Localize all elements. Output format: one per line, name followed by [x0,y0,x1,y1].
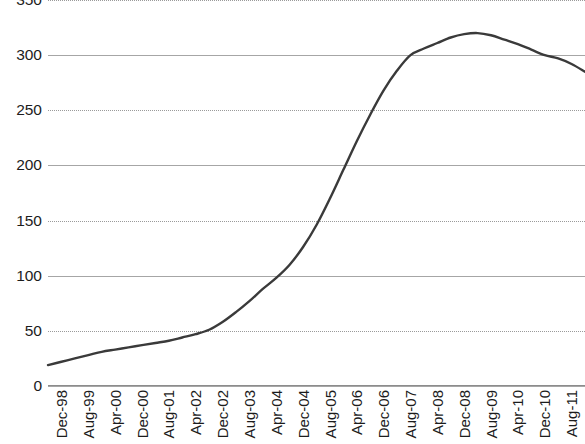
line-chart: 050100150200250300350 Dec-98Aug-99Apr-00… [0,0,585,444]
x-tick-label: Aug-07 [403,390,418,438]
y-tick-label: 350 [0,0,42,8]
y-tick-label: 100 [0,268,42,284]
plot-area [48,0,585,386]
x-tick-label: Apr-02 [188,390,203,435]
x-tick-label: Dec-06 [376,390,391,438]
x-tick-label: Aug-11 [564,390,579,437]
y-axis: 050100150200250300350 [0,0,42,444]
y-tick-label: 50 [0,323,42,339]
x-tick-label: Apr-00 [108,390,123,435]
x-axis-line [48,385,585,386]
x-axis: Dec-98Aug-99Apr-00Dec-00Aug-01Apr-02Dec-… [48,388,585,444]
x-tick-label: Aug-01 [161,390,176,438]
y-tick-label: 150 [0,213,42,229]
x-tick-label: Apr-04 [269,390,284,435]
x-tick-label: Apr-08 [430,390,445,435]
x-tick-label: Apr-06 [349,390,364,435]
x-tick-label: Dec-98 [54,390,69,438]
x-tick-label: Dec-10 [537,390,552,438]
x-tick-label: Apr-10 [510,390,525,435]
x-tick-label: Dec-00 [135,390,150,438]
x-tick-label: Aug-03 [242,390,257,438]
x-tick-label: Dec-02 [215,390,230,438]
y-tick-label: 200 [0,158,42,174]
x-tick-label: Aug-05 [323,390,338,438]
x-tick-label: Dec-08 [457,390,472,438]
y-tick-label: 0 [0,378,42,394]
x-tick-label: Aug-99 [81,390,96,438]
series-line-index [48,0,585,386]
series-path [48,33,585,365]
x-tick-label: Aug-09 [484,390,499,438]
y-tick-label: 250 [0,103,42,119]
gridline [48,386,585,387]
x-tick-label: Dec-04 [296,390,311,438]
y-tick-label: 300 [0,47,42,63]
